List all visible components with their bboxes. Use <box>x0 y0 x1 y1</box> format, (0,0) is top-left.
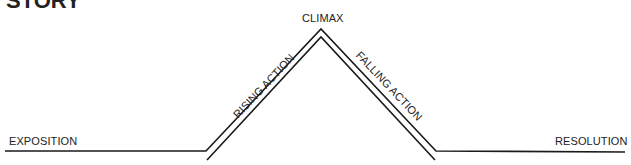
label-exposition: EXPOSITION <box>9 135 77 147</box>
plot-structure-diagram <box>0 0 631 165</box>
label-resolution: RESOLUTION <box>555 135 628 147</box>
outer-plot-line <box>5 29 625 152</box>
label-climax: CLIMAX <box>302 12 344 24</box>
